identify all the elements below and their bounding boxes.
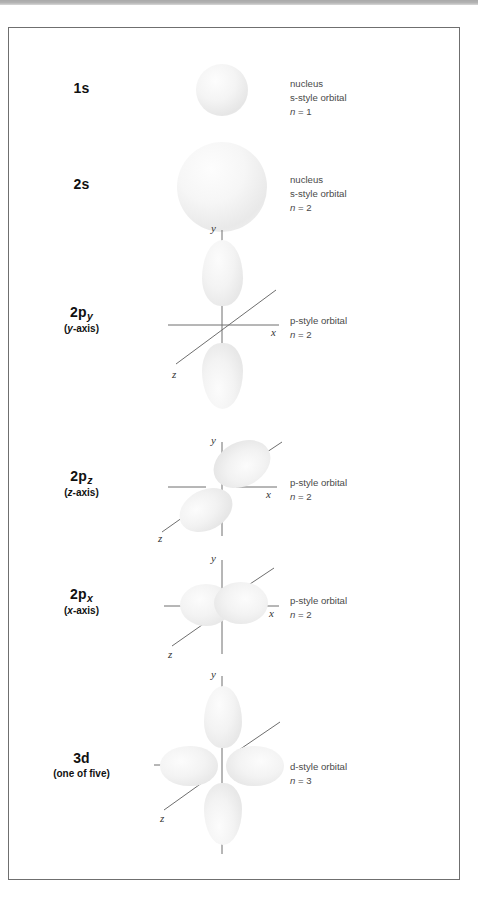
row-label-2pz-axis-post: -axis) [73,487,99,498]
annotation-2pz-line-0: p-style orbital [290,476,455,490]
d-lobe-top-3d [204,686,242,748]
row-label-2py-text: 2p [70,304,87,320]
annotation-2s-n-value: = 2 [298,202,312,213]
axis-label-z: z [159,812,165,824]
row-label-3d: 3d (one of five) [9,750,154,779]
figure-panel: 1s nucleus s-style orbital n = 1 2s nucl… [8,27,460,880]
row-label-2px: 2px (x-axis) [9,586,154,617]
annotation-1s-n: n = 1 [290,105,455,119]
annotation-1s-n-value: = 1 [298,106,312,117]
annotation-2py-line-0: p-style orbital [290,314,455,328]
annotation-3d-n-var: n [290,775,295,786]
annotation-3d-line-0: d-style orbital [290,760,455,774]
annotation-2px-line-0: p-style orbital [290,594,455,608]
orbital-row-3d: 3d (one of five) y x z d-style orbital n… [9,664,461,864]
annotation-2py: p-style orbital n = 2 [290,314,455,342]
row-label-3d-second: (one of five) [53,768,110,779]
axis-label-x: x [270,326,276,338]
orbital-stage-1s [154,48,290,138]
annotation-3d-n-value: = 3 [298,775,312,786]
axis-label-y: y [210,434,216,446]
orbital-row-2pz: 2pz (z-axis) y x z p-style orbital n = 2 [9,428,461,543]
annotation-2px: p-style orbital n = 2 [290,594,455,622]
d-lobe-right-3d [226,746,284,786]
orbital-row-2py: 2py (y-axis) y x z p-style orbital n = 2 [9,218,461,418]
axis-label-x: x [268,607,274,619]
annotation-2s-line-0: nucleus [290,173,455,187]
annotation-2pz-n: n = 2 [290,490,455,504]
row-label-2py-axis-post: -axis) [73,323,99,334]
orbital-row-1s: 1s nucleus s-style orbital n = 1 [9,48,461,138]
row-label-1s: 1s [9,80,154,97]
annotation-2px-n: n = 2 [290,608,455,622]
axis-label-y: y [210,668,216,680]
row-label-2px-axis-post: -axis) [73,605,99,616]
d-lobe-left-3d [160,746,218,786]
p-lobe-right-2px [214,582,268,624]
annotation-2px-n-value: = 2 [298,609,312,620]
row-label-2px-text: 2p [70,586,87,602]
annotation-1s-line-0: nucleus [290,77,455,91]
orbital-stage-2pz: y x z [154,428,290,543]
row-label-2pz-text: 2p [70,468,87,484]
orbital-stage-2px: y x z [154,546,290,661]
annotation-2s-n-var: n [290,202,295,213]
row-label-2s: 2s [9,176,154,193]
annotation-3d: d-style orbital n = 3 [290,760,455,788]
row-label-2px-subscript: x [87,592,93,604]
axis-label-y: y [210,552,216,564]
annotation-2py-n: n = 2 [290,328,455,342]
orbital-stage-3d: y x z [154,664,290,864]
axis-label-y: y [210,222,216,234]
annotation-2s-n: n = 2 [290,201,455,215]
s-orbital-sphere-1s [196,64,248,116]
axis-label-z: z [171,368,177,380]
row-label-3d-text: 3d [73,750,90,766]
axis-label-x: x [265,488,271,500]
annotation-2s-line-1: s-style orbital [290,187,455,201]
row-label-2pz: 2pz (z-axis) [9,468,154,499]
orbital-stage-2py: y x z [154,218,290,418]
orbital-row-2px: 2px (x-axis) y x z p-style orbital n = 2 [9,546,461,661]
annotation-1s: nucleus s-style orbital n = 1 [290,77,455,119]
axis-label-z: z [167,648,173,660]
row-label-2py-subscript: y [87,310,93,322]
annotation-2pz: p-style orbital n = 2 [290,476,455,504]
annotation-1s-n-var: n [290,106,295,117]
axis-label-z: z [157,532,163,544]
row-label-2pz-subscript: z [87,474,92,486]
row-label-1s-text: 1s [74,80,90,96]
annotation-2py-n-var: n [290,329,295,340]
annotation-2pz-n-var: n [290,491,295,502]
annotation-2pz-n-value: = 2 [298,491,312,502]
annotation-3d-n: n = 3 [290,774,455,788]
row-label-2py: 2py (y-axis) [9,304,154,335]
annotation-2s: nucleus s-style orbital n = 2 [290,173,455,215]
top-rule [0,0,478,5]
annotation-2px-n-var: n [290,609,295,620]
row-label-2s-text: 2s [74,176,90,192]
annotation-2py-n-value: = 2 [298,329,312,340]
annotation-1s-line-1: s-style orbital [290,91,455,105]
